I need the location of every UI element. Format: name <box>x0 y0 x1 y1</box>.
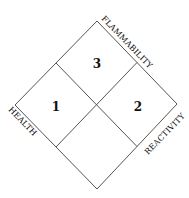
flammability-value: 3 <box>93 57 101 71</box>
hazard-diamond: 3 1 2 FLAMMABILITY HEALTH REACTIVITY <box>0 0 189 198</box>
reactivity-value: 2 <box>134 100 142 114</box>
health-label: HEALTH <box>7 105 39 138</box>
health-value: 1 <box>52 100 60 114</box>
flammability-label: FLAMMABILITY <box>100 14 155 70</box>
